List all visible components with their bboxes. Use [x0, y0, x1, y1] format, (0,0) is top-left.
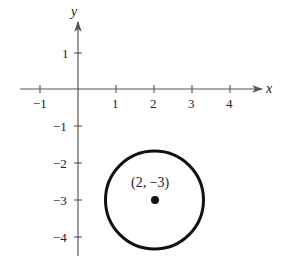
y-tick-label: −3 [53, 193, 67, 208]
y-axis-label: y [69, 4, 78, 19]
y-tick-label: −1 [53, 119, 67, 134]
center-point-label: (2, −3) [131, 175, 170, 191]
y-tick-label: −4 [53, 230, 67, 245]
x-tick-label: 3 [188, 96, 195, 111]
x-tick-label: 2 [150, 96, 157, 111]
x-tick-label: 1 [112, 96, 119, 111]
x-tick-label: 4 [226, 96, 233, 111]
x-tick-label: −1 [33, 96, 47, 111]
x-axis-label: x [265, 81, 273, 96]
y-tick-label: −2 [53, 156, 67, 171]
coordinate-plot: x y −1 1 2 3 4 1 −1 −2 −3 −4 (2, −3) [0, 0, 294, 259]
center-point [151, 196, 159, 204]
y-tick-label: 1 [62, 46, 69, 61]
